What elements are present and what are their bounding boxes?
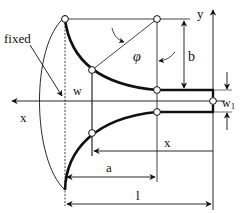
node-upper-stem [154, 87, 161, 94]
fixed-pointer-arrow [30, 45, 62, 96]
node-stem-end [210, 98, 217, 105]
node-lower-stem [154, 109, 161, 116]
node-top-right [154, 16, 161, 23]
label-w1: w1 [222, 96, 235, 111]
diagram-svg: fixed w x y φ b w1 x a l [0, 0, 246, 213]
label-x-axis: x [20, 110, 27, 125]
fixed-support-arc [39, 17, 65, 190]
node-lower-mid [89, 130, 96, 137]
phi-pointer-vertical [159, 52, 175, 61]
diagram-canvas: fixed w x y φ b w1 x a l [0, 0, 246, 213]
label-b: b [188, 49, 195, 64]
label-phi: φ [133, 49, 141, 64]
label-w: w [73, 84, 82, 98]
label-fixed: fixed [4, 31, 31, 46]
label-y-axis: y [197, 6, 204, 21]
label-l: l [136, 188, 140, 203]
phi-diagonal [92, 19, 157, 70]
node-upper-mid [89, 67, 96, 74]
label-x-dim: x [164, 135, 171, 150]
label-a: a [106, 160, 112, 175]
phi-pointer-diagonal [112, 28, 124, 42]
node-top-left [62, 16, 69, 23]
